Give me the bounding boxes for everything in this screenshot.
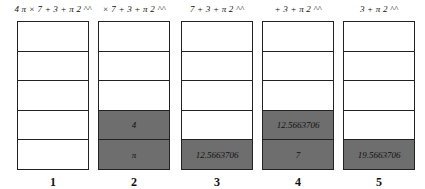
- stack-cell: [182, 80, 252, 110]
- stack-cell-filled: 4: [99, 110, 169, 140]
- stack-cell-filled: 12.5663706: [263, 110, 333, 140]
- stack-cell: [18, 80, 88, 110]
- stack-cell: [344, 110, 414, 140]
- stack-cell: [263, 51, 333, 81]
- stack-cell: [263, 22, 333, 51]
- stack-cell-filled: 12.5663706: [182, 139, 252, 169]
- stack-cell: [344, 80, 414, 110]
- stack-cell: [182, 51, 252, 81]
- stack-cell: [99, 22, 169, 51]
- stack-cell: [18, 22, 88, 51]
- stack-cell-filled: 7: [263, 139, 333, 169]
- step-label: 5: [343, 175, 415, 189]
- step-label: 4: [262, 175, 334, 189]
- stack-cell: [182, 22, 252, 51]
- stack-cell: [344, 22, 414, 51]
- stack-cell: [182, 110, 252, 140]
- stack: 19.5663706: [343, 21, 415, 170]
- stack-cell-filled: 19.5663706: [344, 139, 414, 169]
- stack-cell: [99, 51, 169, 81]
- stack-cell: [18, 51, 88, 81]
- stack: 12.5663706 7: [262, 21, 334, 170]
- stack-cell: [18, 110, 88, 140]
- stack: 12.5663706: [181, 21, 253, 170]
- step-label: 1: [17, 175, 89, 189]
- stack-cell: [99, 80, 169, 110]
- stack-cell: [344, 51, 414, 81]
- step-label: 2: [98, 175, 170, 189]
- stack: 4 π: [98, 21, 170, 170]
- stack-cell: [263, 80, 333, 110]
- stack-cell: [18, 139, 88, 169]
- stack-cell-filled: π: [99, 139, 169, 169]
- step-expression: 3 + π 2 ^^: [323, 4, 425, 14]
- stack: [17, 21, 89, 170]
- step-label: 3: [181, 175, 253, 189]
